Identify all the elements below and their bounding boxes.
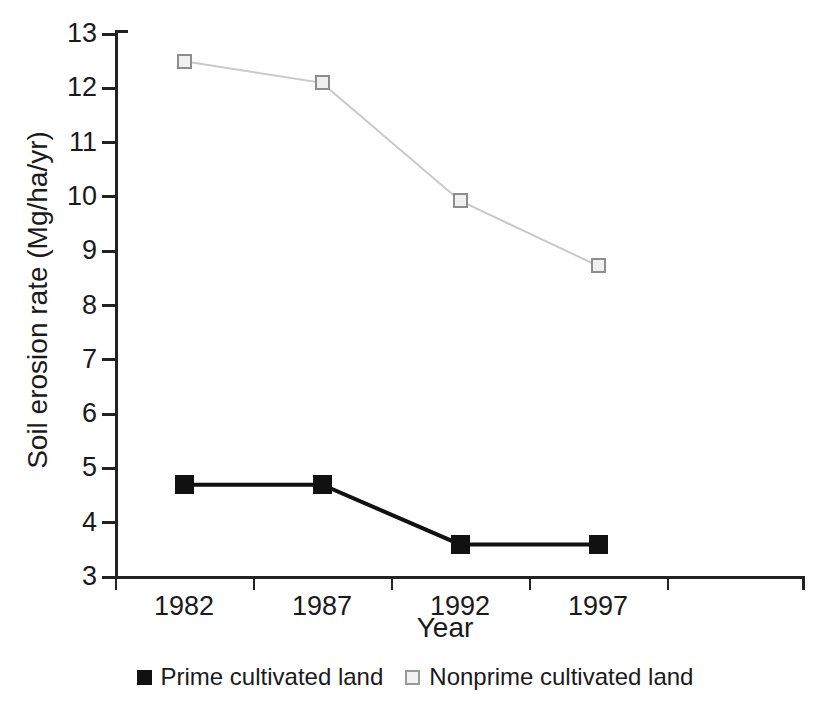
legend-entry: Prime cultivated land [137,665,384,689]
y-tick-label: 4 [53,509,97,536]
y-tick-label: 12 [53,74,97,101]
x-tick [667,576,669,590]
y-tick-label: 8 [53,292,97,319]
y-tick-label: 5 [53,454,97,481]
legend-label: Prime cultivated land [161,665,384,689]
filled-square-icon [137,670,152,685]
x-axis-right-cap [802,576,805,590]
data-point-prime [451,535,470,554]
data-point-prime [589,535,608,554]
y-tick-label: 9 [53,237,97,264]
x-axis-title: Year [345,612,545,644]
y-tick-label: 10 [53,183,97,210]
x-tick-label: 1997 [538,593,658,620]
y-tick-label: 11 [53,129,97,156]
y-tick [102,521,115,524]
y-tick [102,358,115,361]
y-tick [102,33,115,36]
x-tick [529,576,531,590]
y-tick-label: 6 [53,400,97,427]
x-tick [115,576,117,590]
data-point-prime [175,475,194,494]
line-prime [184,485,598,545]
chart-figure: Soil erosion rate (Mg/ha/yr) 34567891011… [0,0,830,727]
x-tick [253,576,255,590]
open-square-icon [405,670,420,685]
y-tick [102,250,115,253]
x-tick [391,576,393,590]
chart-legend: Prime cultivated landNonprime cultivated… [0,665,830,689]
y-tick [102,576,115,579]
data-point-nonprime [591,258,606,273]
x-tick-label: 1982 [124,593,244,620]
line-nonprime [184,61,598,266]
y-tick [102,195,115,198]
legend-label: Nonprime cultivated land [429,665,693,689]
data-point-nonprime [453,193,468,208]
plot-area: 345678910111213 1982198719921997 [115,31,805,577]
y-tick [102,304,115,307]
y-tick-label: 3 [53,563,97,590]
series-lines [115,31,805,577]
y-tick-label: 7 [53,346,97,373]
legend-entry: Nonprime cultivated land [405,665,693,689]
data-point-nonprime [177,54,192,69]
y-tick [102,141,115,144]
data-point-prime [313,475,332,494]
y-tick-label: 13 [53,20,97,47]
y-tick [102,87,115,90]
data-point-nonprime [315,75,330,90]
y-tick [102,467,115,470]
y-tick [102,413,115,416]
